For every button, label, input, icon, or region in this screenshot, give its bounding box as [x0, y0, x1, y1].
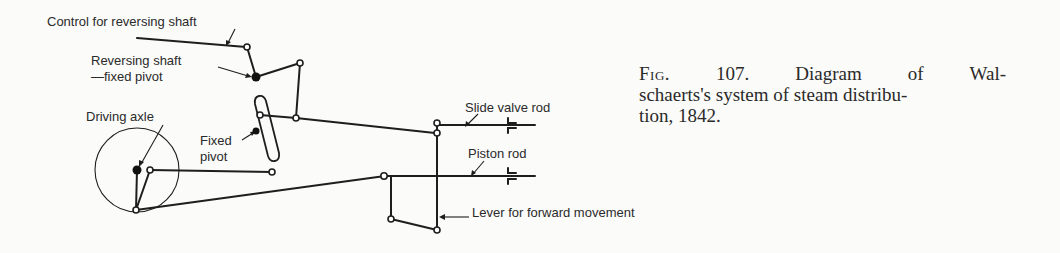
figure-number: 107. [716, 63, 749, 84]
label-fixed-pivot-2: pivot [200, 149, 228, 164]
label-slide-valve-rod: Slide valve rod [465, 100, 550, 115]
label-driving-axle: Driving axle [86, 109, 154, 124]
caption-line-2: schaerts's system of steam distribu- [639, 84, 1006, 105]
figure-prefix: Fig. [639, 63, 670, 84]
label-piston-rod: Piston rod [468, 146, 527, 161]
caption-line-3: tion, 1842. [639, 105, 1006, 126]
label-fixed-pivot: Fixed [200, 133, 232, 148]
label-reversing-shaft: Reversing shaft [91, 53, 182, 68]
leader-arrows [139, 29, 484, 220]
caption-word-diagram: Diagram [795, 63, 861, 84]
walschaerts-valve-gear-diagram: Control for reversing shaft Reversing sh… [0, 0, 1060, 253]
caption-line-1: Fig. 107. Diagram of Wal- [639, 63, 1006, 84]
expansion-link-fixed-pivot [253, 128, 260, 135]
figure-caption: Fig. 107. Diagram of Wal- schaerts's sys… [639, 63, 1006, 126]
caption-word-wal: Wal- [970, 63, 1006, 84]
reversing-shaft-fixed-pivot [252, 73, 261, 82]
linkage [136, 38, 535, 230]
driving-axle-pivot [133, 166, 142, 175]
label-fixed-pivot-sub: —fixed pivot [91, 69, 163, 84]
label-control-for-reversing-shaft: Control for reversing shaft [47, 14, 197, 29]
caption-word-of: of [908, 63, 924, 84]
label-lever-forward-movement: Lever for forward movement [472, 205, 635, 220]
